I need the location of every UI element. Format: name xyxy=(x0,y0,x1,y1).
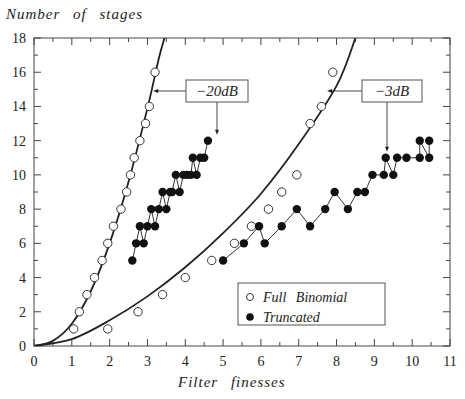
truncated-point xyxy=(306,222,314,230)
full-binomial-point xyxy=(136,136,144,144)
full-binomial-point xyxy=(158,290,166,298)
truncated-point xyxy=(416,136,424,144)
truncated-point xyxy=(192,171,200,179)
truncated-point xyxy=(361,188,369,196)
truncated-point xyxy=(204,136,212,144)
full-binomial-point xyxy=(151,68,159,76)
full-binomial-point xyxy=(90,273,98,281)
full-binomial-point xyxy=(75,308,83,316)
full-binomial-point xyxy=(122,188,130,196)
arrow-head-icon xyxy=(385,147,389,152)
truncated-point xyxy=(380,171,388,179)
x-tick-label: 6 xyxy=(257,354,264,369)
full-binomial-point xyxy=(141,119,149,127)
x-tick-label: 10 xyxy=(405,354,419,369)
full-binomial-point xyxy=(230,239,238,247)
full-binomial-point xyxy=(293,171,301,179)
y-tick-label: 2 xyxy=(19,305,26,320)
truncated-point xyxy=(368,171,376,179)
truncated-point xyxy=(143,222,151,230)
full-binomial-point xyxy=(247,222,255,230)
truncated-point xyxy=(393,154,401,162)
legend-label: Truncated xyxy=(263,310,321,325)
truncated-point xyxy=(132,239,140,247)
truncated-point xyxy=(136,222,144,230)
y-tick-label: 0 xyxy=(19,339,26,354)
x-tick-label: 4 xyxy=(182,354,189,369)
truncated-point xyxy=(425,154,433,162)
truncated-point xyxy=(189,154,197,162)
truncated-point xyxy=(175,188,183,196)
truncated-point xyxy=(162,205,170,213)
full-binomial-point xyxy=(130,154,138,162)
truncated-point xyxy=(389,171,397,179)
full-binomial-point xyxy=(145,102,153,110)
full-binomial-point xyxy=(104,239,112,247)
annotations: −20dB−3dB xyxy=(153,80,422,152)
y-tick-label: 4 xyxy=(19,271,26,286)
truncated-point xyxy=(139,239,147,247)
truncated-point xyxy=(382,154,390,162)
truncated-point xyxy=(200,154,208,162)
truncated-point xyxy=(416,154,424,162)
y-tick-label: 18 xyxy=(12,31,26,46)
arrow-head-icon xyxy=(327,89,332,93)
chart-canvas: 01234567891011024681012141618 −20dB−3dB … xyxy=(0,0,465,399)
fit-curve xyxy=(34,38,164,346)
x-axis-label: Filter finesses xyxy=(178,374,286,391)
x-tick-label: 7 xyxy=(295,354,302,369)
y-tick-label: 12 xyxy=(12,134,26,149)
x-tick-label: 8 xyxy=(333,354,340,369)
annotation-label: −3dB xyxy=(375,83,409,99)
full-binomial-point xyxy=(70,325,78,333)
y-tick-label: 10 xyxy=(12,168,26,183)
truncated-point xyxy=(151,222,159,230)
full-binomial-point xyxy=(134,308,142,316)
arrow-head-icon xyxy=(215,130,219,135)
full-binomial-point xyxy=(329,68,337,76)
x-tick-label: 9 xyxy=(371,354,378,369)
x-tick-label: 0 xyxy=(31,354,38,369)
truncated-point xyxy=(402,154,410,162)
truncated-point xyxy=(128,256,136,264)
truncated-point xyxy=(293,205,301,213)
full-binomial-point xyxy=(278,188,286,196)
legend: Full BinomialTruncated xyxy=(238,283,385,325)
y-tick-label: 14 xyxy=(12,99,26,114)
annotation-label: −20dB xyxy=(196,83,238,99)
truncated-point xyxy=(255,222,263,230)
truncated-point xyxy=(344,205,352,213)
truncated-point xyxy=(168,188,176,196)
full-binomial-point xyxy=(181,273,189,281)
y-tick-label: 8 xyxy=(19,202,26,217)
truncated-point xyxy=(172,171,180,179)
full-binomial-point xyxy=(126,171,134,179)
x-tick-label: 3 xyxy=(144,354,151,369)
truncated-point xyxy=(260,239,268,247)
full-binomial-point xyxy=(117,205,125,213)
legend-open-circle-icon xyxy=(247,294,254,301)
truncated-point xyxy=(425,136,433,144)
truncated-point xyxy=(321,205,329,213)
full-binomial-point xyxy=(109,222,117,230)
full-binomial-point xyxy=(317,102,325,110)
full-binomial-point xyxy=(83,290,91,298)
truncated-point xyxy=(155,205,163,213)
truncated-point xyxy=(278,222,286,230)
x-tick-label: 5 xyxy=(220,354,227,369)
x-tick-label: 11 xyxy=(443,354,456,369)
truncated-point xyxy=(353,188,361,196)
truncated-point xyxy=(219,256,227,264)
full-binomial-point xyxy=(98,256,106,264)
y-tick-label: 6 xyxy=(19,236,26,251)
legend-filled-circle-icon xyxy=(246,313,254,321)
arrow-head-icon xyxy=(153,89,158,93)
full-binomial-point xyxy=(306,119,314,127)
y-tick-label: 16 xyxy=(12,65,26,80)
full-binomial-point xyxy=(104,325,112,333)
truncated-point xyxy=(240,239,248,247)
x-tick-label: 2 xyxy=(106,354,113,369)
truncated-point xyxy=(147,205,155,213)
truncated-point xyxy=(330,188,338,196)
truncated-point xyxy=(158,188,166,196)
